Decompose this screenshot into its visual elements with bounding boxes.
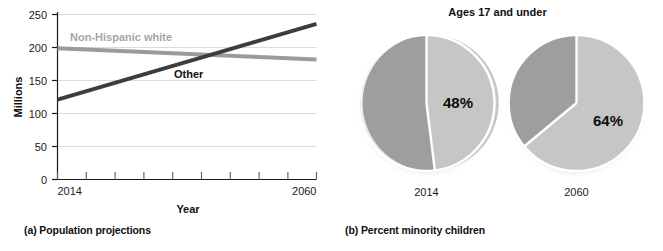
y-tick-label-250: 250: [29, 9, 47, 21]
x-tick-label-2014: 2014: [58, 185, 82, 197]
x-tick-label-2060: 2060: [292, 185, 316, 197]
pie-year-label-2014: 2014: [354, 186, 499, 198]
pie-chart-2014: 48%: [354, 27, 499, 179]
series-label-other: Other: [174, 68, 204, 80]
series-label-non-hispanic-white: Non-Hispanic white: [70, 31, 172, 43]
panel-a-caption: (a) Population projections: [24, 224, 151, 236]
pie-percent-label: 48%: [443, 94, 473, 111]
pies-title: Ages 17 and under: [332, 6, 663, 18]
series-line-non-hispanic-white: [58, 48, 317, 59]
y-axis-ticks: [52, 15, 58, 180]
x-axis-title: Year: [176, 203, 200, 215]
y-tick-label-50: 50: [35, 141, 47, 153]
y-tick-label-150: 150: [29, 75, 47, 87]
pie-chart-2060: 64%: [504, 27, 649, 179]
line-chart: 250 200 150 100 50 0 2014 2060 Year Mill…: [0, 0, 332, 220]
percent-minority-children-panel: Ages 17 and under 48% 2014: [332, 0, 663, 251]
pie-percent-label: 64%: [593, 112, 623, 129]
population-projections-panel: 250 200 150 100 50 0 2014 2060 Year Mill…: [0, 0, 332, 251]
y-tick-label-0: 0: [41, 174, 47, 186]
panel-b-caption: (b) Percent minority children: [345, 224, 485, 236]
x-axis-ticks: [58, 172, 317, 180]
y-axis-title: Millions: [12, 77, 24, 118]
y-tick-label-100: 100: [29, 108, 47, 120]
pie-year-label-2060: 2060: [504, 186, 649, 198]
y-tick-label-200: 200: [29, 42, 47, 54]
